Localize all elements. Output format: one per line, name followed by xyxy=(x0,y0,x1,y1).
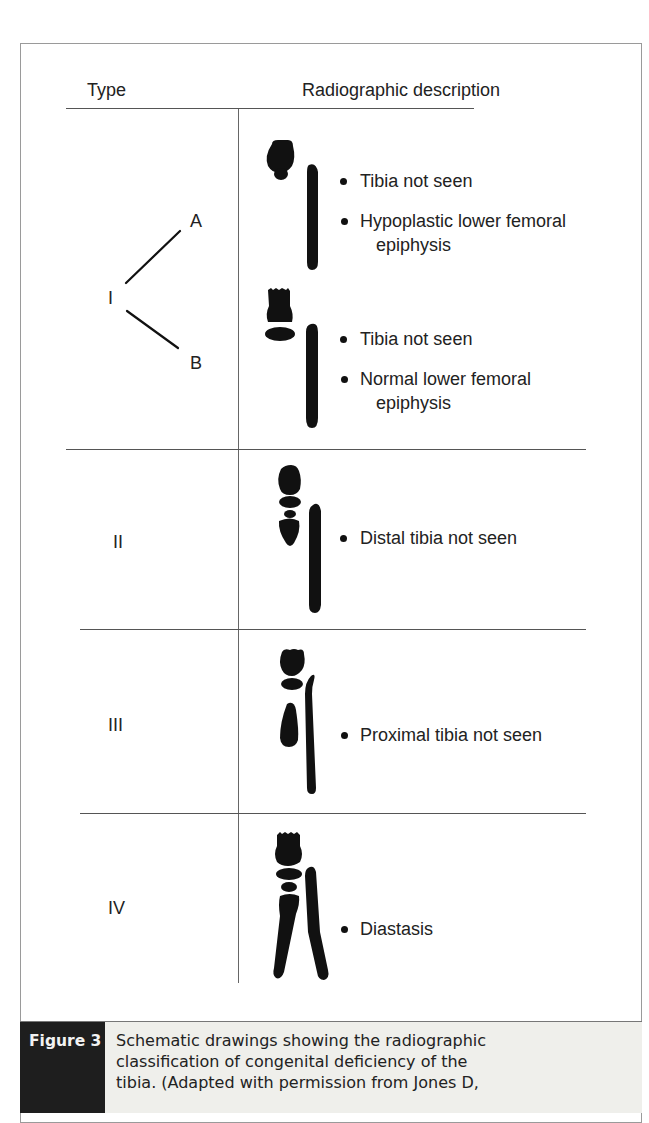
bullet-II-1: Distal tibia not seen xyxy=(360,526,517,550)
type-II-label: II xyxy=(113,532,123,553)
type-IV-label: IV xyxy=(108,898,125,919)
bullet-III-1: Proximal tibia not seen xyxy=(360,723,542,747)
type-IA-femur-hypoplastic-icon xyxy=(262,140,332,275)
bullet-IB-1: Tibia not seen xyxy=(360,327,472,351)
bullet-IB-2-cont: epiphysis xyxy=(376,391,451,415)
bullet-dot xyxy=(340,535,347,542)
caption-line-1: Schematic drawings showing the radiograp… xyxy=(116,1030,636,1051)
bullet-dot xyxy=(341,218,348,225)
bullet-dot xyxy=(341,376,348,383)
figure-caption: Figure 3 Schematic drawings showing the … xyxy=(20,1021,642,1113)
type-II-distal-tibia-absent-icon xyxy=(275,465,325,615)
type-IV-diastasis-icon xyxy=(272,832,332,982)
bullet-IA-2: Hypoplastic lower femoral xyxy=(360,209,566,233)
caption-text: Schematic drawings showing the radiograp… xyxy=(116,1030,636,1093)
type-III-proximal-tibia-absent-icon xyxy=(278,648,328,798)
bullet-dot xyxy=(340,178,347,185)
bullet-IV-1: Diastasis xyxy=(360,917,433,941)
bullet-dot xyxy=(341,732,348,739)
type-IB-femur-normal-icon xyxy=(262,288,332,438)
bullet-IA-2-cont: epiphysis xyxy=(376,233,451,257)
bullet-IB-2: Normal lower femoral xyxy=(360,367,531,391)
figure-label: Figure 3 xyxy=(20,1022,105,1113)
type-III-label: III xyxy=(108,715,123,736)
bullet-dot xyxy=(341,926,348,933)
bullet-dot xyxy=(340,336,347,343)
caption-line-3: tibia. (Adapted with permission from Jon… xyxy=(116,1072,636,1093)
bullet-IA-1: Tibia not seen xyxy=(360,169,472,193)
caption-line-2: classification of congenital deficiency … xyxy=(116,1051,636,1072)
